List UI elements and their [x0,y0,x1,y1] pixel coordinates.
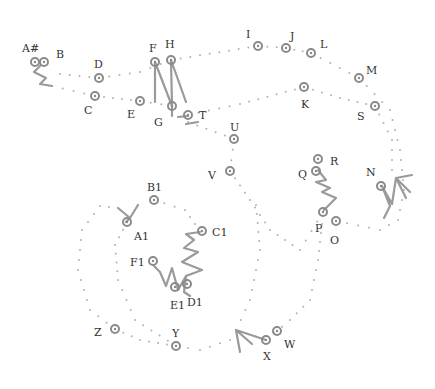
guide-dot [389,109,391,111]
guide-dot [160,103,162,105]
guide-dot [339,67,341,69]
node-center [285,47,287,49]
guide-dot [219,342,221,344]
guide-dot [302,50,304,52]
guide-dot [329,62,331,64]
node-center [322,211,324,213]
node-center [186,283,188,285]
guide-dot [391,139,393,141]
guide-dot [293,49,295,51]
node-p: P [315,208,327,235]
guide-dot [149,67,151,69]
node-label: V [207,169,217,182]
guide-dot [281,326,283,328]
node-b1: B1 [147,181,162,204]
guide-dot [244,192,246,194]
node-d: D [94,58,103,82]
guide-dot [150,329,152,331]
node-label: U [230,121,239,134]
stroke-c1-zigzag [182,232,202,276]
guide-dot [269,229,271,231]
guide-dot [99,205,101,207]
guide-dot [313,279,315,281]
node-center [276,330,278,332]
node-center [34,61,36,63]
guide-dot [163,202,165,204]
guide-dot [209,53,211,55]
dotted-paths [51,45,405,351]
node-label: D1 [187,296,203,309]
guide-dot [259,214,261,216]
node-label: Z [94,326,102,339]
node-label: G [154,116,163,129]
node-label: B1 [147,181,162,194]
node-label: C1 [212,226,227,239]
node-center [265,339,267,341]
guide-dot [294,88,296,90]
node-center [94,95,96,97]
node-label: A# [21,42,39,55]
node-center [233,138,235,140]
guide-dot [392,119,394,121]
guide-dot [189,56,191,58]
guide-dot [122,229,124,231]
guide-dot [257,231,259,233]
node-center [114,328,116,330]
guide-dot [103,96,105,98]
guide-dot [83,93,85,95]
guide-dot [357,225,359,227]
guide-dot [299,249,301,251]
guide-dot [108,76,110,78]
guide-dot [89,309,91,311]
guide-dot [254,207,256,209]
node-label: I [246,28,250,41]
node-center [152,260,154,262]
guide-dot [249,199,251,201]
node-label: W [284,338,296,351]
guide-dot [234,177,236,179]
guide-dot [330,94,332,96]
node-label: D [94,58,103,71]
node-j: J [282,30,294,52]
node-center [98,77,100,79]
node-h: H [165,38,175,64]
guide-dot [249,299,251,301]
guide-dot [397,219,399,221]
node-o: O [330,217,340,247]
guide-dot [399,149,401,151]
guide-dot [114,244,116,246]
node-center [154,61,156,63]
node-center [126,221,128,223]
node-label: X [263,350,271,363]
guide-dot [184,209,186,211]
dot-path-diagram: A#BCDEFGHIJKLMNOPQRSTUVWXYZA1B1C1D1E1F1 [0,0,435,389]
node-label: T [199,109,207,122]
node-t: T [184,109,207,122]
guide-dot [150,102,152,104]
node-center [374,105,376,107]
guide-dot [78,259,80,261]
guide-dot [229,105,231,107]
guide-dot [317,259,319,261]
guide-dot [218,51,220,53]
guide-dot [368,227,370,229]
node-w: W [273,327,296,351]
node-v: V [207,167,234,182]
node-center [170,59,172,61]
guide-dot [159,335,161,337]
guide-dot [157,342,159,344]
guide-dot [116,262,118,264]
guide-dot [244,309,246,311]
guide-dot [80,279,82,281]
guide-dot [379,229,381,231]
guide-dot [401,199,403,201]
guide-dot [259,249,261,251]
guide-dot [289,319,291,321]
node-center [139,100,141,102]
guide-dot [346,222,348,224]
guide-dot [115,253,117,255]
guide-dot [302,306,304,308]
guide-dot [391,169,393,171]
guide-dot [305,240,307,242]
guide-dot [276,46,278,48]
